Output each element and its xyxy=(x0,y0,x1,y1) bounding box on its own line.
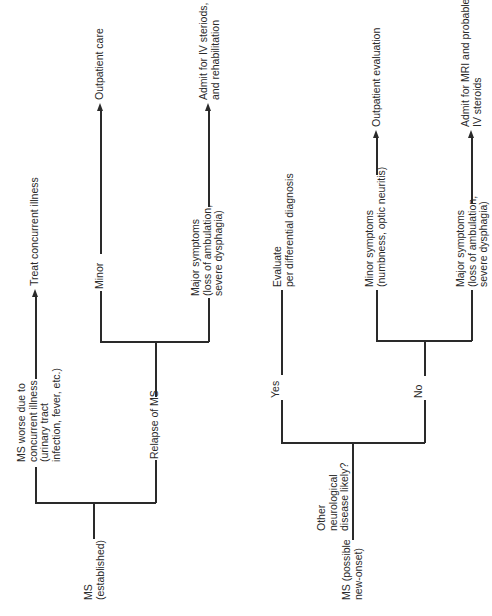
concurrent-branch-label: MS worse due to concurrent illness (urin… xyxy=(16,368,62,462)
yes-line-upper xyxy=(281,290,283,375)
relapse-split xyxy=(100,341,209,343)
yes-label: Yes xyxy=(270,381,282,398)
concurrent-branch-line-lower xyxy=(35,467,37,503)
minor-label: Minor xyxy=(94,263,106,289)
concurrent-outcome: Treat concurrent illness xyxy=(29,177,41,286)
yes-outcome: Evaluate per differential diagnosis xyxy=(272,173,295,287)
left-root-split xyxy=(35,502,156,504)
relapse-branch-line-upper xyxy=(155,341,157,397)
major-line-lower xyxy=(208,298,210,342)
no-line-lower xyxy=(424,400,426,443)
major-label: Major symptoms (loss of ambulation, seve… xyxy=(190,205,225,296)
right-major-line-upper xyxy=(471,137,473,204)
relapse-branch-line-lower xyxy=(155,460,157,503)
right-root-split xyxy=(281,442,425,444)
no-line-upper xyxy=(424,340,426,376)
concurrent-branch-line-upper xyxy=(35,296,37,379)
arrow-up-icon xyxy=(32,289,38,297)
right-minor-line-lower xyxy=(376,290,378,341)
arrow-up-icon xyxy=(205,103,211,111)
right-major-outcome: Admit for MRI and probable IV steroids xyxy=(460,0,483,127)
minor-outcome: Outpatient care xyxy=(94,28,106,100)
question-label: Other neurological disease likely? xyxy=(316,463,351,531)
no-label: No xyxy=(413,385,425,398)
major-outcome: Admit for IV steriods, and rehabilitatio… xyxy=(198,3,221,100)
right-minor-label: Minor symptoms (numbness, optic neuritis… xyxy=(364,167,387,287)
left-root-label: MS (established) xyxy=(83,540,106,600)
relapse-branch-label: Relapse of MS xyxy=(149,390,161,459)
right-major-line-lower xyxy=(471,290,473,341)
minor-line-lower xyxy=(100,291,102,342)
no-split xyxy=(376,340,472,342)
minor-line-upper xyxy=(100,110,102,254)
right-minor-outcome: Outpatient evaluation xyxy=(371,28,383,127)
right-root-stem xyxy=(352,442,354,540)
yes-line-lower xyxy=(281,400,283,443)
right-major-label: Major symptoms (loss of ambulation, seve… xyxy=(455,196,490,287)
right-minor-line-upper xyxy=(376,137,378,175)
arrow-up-icon xyxy=(373,130,379,138)
arrow-up-icon xyxy=(97,103,103,111)
arrow-up-icon xyxy=(468,130,474,138)
right-root-label: MS (possible new-onset) xyxy=(341,539,364,600)
major-line-upper xyxy=(208,110,210,207)
left-root-stem xyxy=(93,502,95,539)
